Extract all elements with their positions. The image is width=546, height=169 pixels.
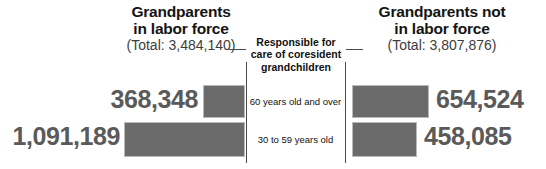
right-panel-title-line2: in labor force [352,21,532,38]
left-panel-heading: Grandparents in labor force (Total: 3,48… [96,4,266,54]
right-panel-heading: Grandparents not in labor force (Total: … [352,4,532,54]
left-connector-rule [229,49,246,50]
value-label-left-row-1: 1,091,189 [2,124,120,149]
value-label-right-row-1: 458,085 [424,124,512,149]
category-axis-heading-line3: grandchildren [246,61,346,73]
bar-left-row-1 [124,122,245,157]
right-panel-title-line1: Grandparents not [379,3,506,20]
chart-canvas: Grandparents in labor force (Total: 3,48… [0,0,546,169]
left-panel-title-line1: Grandparents [131,3,230,20]
right-connector-rule [346,49,363,50]
right-panel-total: (Total: 3,807,876) [352,38,532,53]
left-divider-line [246,62,247,163]
bar-right-row-1 [352,122,417,157]
left-panel-title: Grandparents in labor force [96,4,266,37]
left-panel-total: (Total: 3,484,140) [96,38,266,53]
category-axis-heading: Responsible for care of coresident grand… [246,36,346,73]
category-label-row-1: 30 to 59 years old [247,134,344,145]
left-panel-title-line2: in labor force [96,21,266,38]
value-label-right-row-0: 654,524 [436,87,524,112]
category-axis-heading-line1: Responsible for [246,36,346,48]
bar-right-row-0 [352,85,429,118]
bar-left-row-0 [203,85,245,118]
category-axis-heading-line2: care of coresident [246,48,346,60]
category-label-row-0: 60 years old and over [247,96,344,107]
value-label-left-row-0: 368,348 [75,87,198,112]
right-divider-line [345,62,346,163]
right-panel-title: Grandparents not in labor force [352,4,532,37]
